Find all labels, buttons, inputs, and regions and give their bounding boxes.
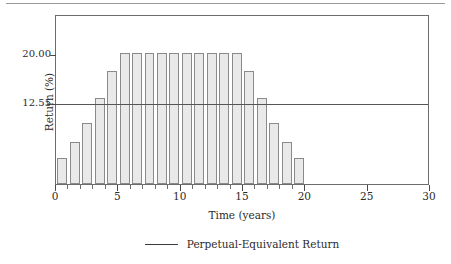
bar bbox=[294, 158, 304, 184]
bar bbox=[157, 53, 167, 184]
bar bbox=[219, 53, 229, 184]
bar bbox=[70, 142, 80, 185]
x-axis-minor-tick bbox=[142, 185, 143, 189]
bar bbox=[232, 53, 242, 184]
x-axis-tick-label: 30 bbox=[422, 190, 435, 202]
x-axis-tick-label: 10 bbox=[173, 190, 186, 202]
bar bbox=[182, 53, 192, 184]
x-axis-tick-label: 0 bbox=[52, 190, 59, 202]
bar bbox=[107, 71, 117, 184]
bar bbox=[282, 142, 292, 185]
x-axis-minor-tick bbox=[92, 185, 93, 189]
x-axis-tick-label: 25 bbox=[360, 190, 373, 202]
bar bbox=[145, 53, 155, 184]
bar bbox=[120, 53, 130, 184]
x-axis-minor-tick bbox=[230, 185, 231, 189]
x-axis-minor-tick bbox=[167, 185, 168, 189]
y-axis-tick bbox=[50, 104, 56, 105]
x-axis-minor-tick bbox=[267, 185, 268, 189]
legend-item-label: Perpetual-Equivalent Return bbox=[187, 238, 339, 250]
x-axis-minor-tick bbox=[254, 185, 255, 189]
bar bbox=[132, 53, 142, 184]
x-axis-minor-tick bbox=[279, 185, 280, 189]
y-axis-tick-label: 12.55 bbox=[22, 98, 51, 108]
bar bbox=[82, 123, 92, 184]
y-axis-tick-label: 20.00 bbox=[22, 49, 51, 59]
x-axis-minor-tick bbox=[130, 185, 131, 189]
x-axis-minor-tick bbox=[67, 185, 68, 189]
x-axis-minor-tick bbox=[105, 185, 106, 189]
x-axis-tick-label: 15 bbox=[235, 190, 248, 202]
x-axis-minor-tick bbox=[192, 185, 193, 189]
x-axis-minor-tick bbox=[217, 185, 218, 189]
bar bbox=[257, 98, 267, 184]
x-axis-tick-label: 5 bbox=[114, 190, 121, 202]
x-axis-minor-tick bbox=[205, 185, 206, 189]
bar bbox=[95, 98, 105, 184]
bar bbox=[194, 53, 204, 184]
x-axis-minor-tick bbox=[155, 185, 156, 189]
bar bbox=[169, 53, 179, 184]
legend-line-swatch bbox=[145, 244, 178, 245]
x-axis-labels: 051015202530 bbox=[55, 190, 429, 204]
x-axis-tick-label: 20 bbox=[298, 190, 311, 202]
bar bbox=[244, 71, 254, 184]
x-axis-minor-tick bbox=[80, 185, 81, 189]
bar bbox=[207, 53, 217, 184]
x-axis-title: Time (years) bbox=[55, 209, 429, 221]
chart-legend: Perpetual-Equivalent Return bbox=[55, 236, 429, 252]
bars-layer bbox=[56, 16, 428, 184]
figure: Return (%) 12.5520.00 051015202530 Time … bbox=[0, 0, 451, 264]
bar bbox=[57, 158, 67, 184]
y-axis-labels: 12.5520.00 bbox=[0, 15, 51, 185]
bar bbox=[269, 123, 279, 184]
x-axis-minor-tick bbox=[292, 185, 293, 189]
top-divider-rule bbox=[6, 3, 445, 4]
plot-area bbox=[55, 15, 429, 185]
perpetual-equivalent-return-line bbox=[56, 104, 428, 105]
y-axis-tick bbox=[50, 55, 56, 56]
